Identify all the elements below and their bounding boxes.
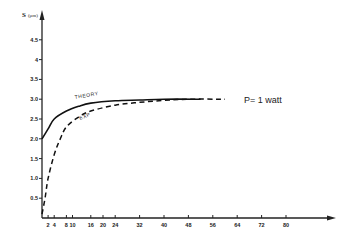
y-axis-arrow-icon [40, 10, 45, 20]
y-axis-label: S(μm) [22, 11, 38, 19]
theory-curve [42, 99, 201, 139]
x-tick-label: 56 [210, 222, 216, 228]
exp-curve-label: EXP [78, 111, 91, 121]
x-tick-label: 8 [65, 222, 68, 228]
y-tick-label: 2.0 [30, 136, 38, 142]
y-tick-label: 3.0 [30, 96, 38, 102]
x-tick-label: 32 [137, 222, 143, 228]
x-tick-label: 20 [100, 222, 106, 228]
x-tick-label: 2 [47, 222, 50, 228]
theory-curve-label: THEORY [74, 90, 99, 100]
y-tick-label: 0.5 [30, 195, 38, 201]
x-axis-arrow-icon [327, 216, 336, 221]
y-tick-label: 1.0 [30, 175, 38, 181]
exp-curve [42, 99, 225, 214]
y-tick-label: 3.5 [30, 76, 38, 82]
x-tick-label: 4 [53, 222, 57, 228]
x-tick-label: 16 [88, 222, 94, 228]
curves [42, 99, 225, 214]
y-tick-label: 2.5 [30, 116, 38, 122]
y-tick-label: 1.5 [30, 156, 38, 162]
chart: 0.51.01.52.02.53.03.544.5248101620243240… [0, 0, 353, 237]
x-tick-label: 48 [185, 222, 191, 228]
x-tick-label: 80 [283, 222, 289, 228]
y-tick-label: 4.5 [30, 37, 38, 43]
y-tick-label: 4 [35, 57, 39, 63]
x-tick-label: 24 [112, 222, 119, 228]
x-tick-label: 10 [69, 222, 75, 228]
x-tick-label: 40 [161, 222, 167, 228]
x-tick-label: 64 [234, 222, 241, 228]
power-annotation: P= 1 watt [244, 95, 282, 105]
x-tick-label: 72 [259, 222, 265, 228]
